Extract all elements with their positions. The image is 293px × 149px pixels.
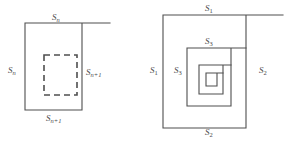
label-left-right-base: S — [86, 67, 91, 77]
diagram-canvas — [0, 0, 293, 149]
label-left-top-base: S — [52, 12, 57, 22]
label-right-right-s2: S2 — [259, 66, 267, 75]
label-right-top-s1: S1 — [205, 4, 213, 13]
label-right-right-s2-base: S — [259, 65, 264, 75]
label-right-right-s2-sub: 2 — [264, 69, 267, 76]
label-left-left: Sn — [8, 66, 16, 75]
label-right-left-s1: S1 — [150, 66, 158, 75]
label-right-left-s1-sub: 1 — [155, 69, 158, 76]
label-right-top-s3: S3 — [205, 37, 213, 46]
label-left-left-base: S — [8, 65, 13, 75]
label-left-top: Sn — [52, 13, 60, 22]
label-left-bottom-sub: n+1 — [51, 117, 62, 124]
label-right-top-s3-base: S — [205, 36, 210, 46]
label-right-left-s3-base: S — [174, 65, 179, 75]
label-left-right: Sn+1 — [86, 68, 101, 77]
label-right-bottom-s2: S2 — [205, 128, 213, 137]
figure-root: Sn Sn Sn+1 Sn+1 S1 S1 S2 S2 S3 S3 — [0, 0, 293, 149]
label-left-top-sub: n — [57, 16, 60, 23]
label-right-top-s1-base: S — [205, 3, 210, 13]
label-left-bottom: Sn+1 — [46, 114, 61, 123]
left-diagram — [25, 23, 110, 110]
left-inner-dashed-square — [44, 55, 77, 95]
label-left-left-sub: n — [13, 69, 16, 76]
label-right-left-s3: S3 — [174, 66, 182, 75]
label-right-top-s3-sub: 3 — [210, 40, 213, 47]
right-square-level-4 — [206, 73, 223, 86]
label-right-bottom-s2-sub: 2 — [210, 131, 213, 138]
label-right-top-s1-sub: 1 — [210, 7, 213, 14]
label-left-right-sub: n+1 — [91, 71, 102, 78]
label-left-bottom-base: S — [46, 113, 51, 123]
label-right-left-s1-base: S — [150, 65, 155, 75]
left-outer-square-path — [25, 23, 110, 110]
label-right-bottom-s2-base: S — [205, 127, 210, 137]
label-right-left-s3-sub: 3 — [179, 69, 182, 76]
right-square-level-3 — [199, 65, 231, 94]
